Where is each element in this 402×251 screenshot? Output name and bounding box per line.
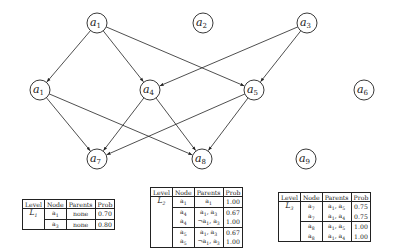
prob-cell: 0.75 — [351, 212, 371, 222]
header-parents: Parents — [322, 193, 351, 202]
node-cell: a4 — [172, 217, 194, 227]
node-cell: a7 — [300, 202, 322, 212]
node-a7: a7 — [87, 149, 107, 169]
parents-cell: none — [66, 209, 95, 220]
cpt-table-level-2: Level Node Parents Prob L2a1a11.00a4a1, … — [150, 187, 243, 248]
table-header-row: Level Node Parents Prob — [279, 193, 371, 202]
prob-cell: 0.67 — [223, 227, 243, 237]
node-a1: a1 — [87, 13, 107, 33]
network-graph: a1a2a3a1a4a5a6a7a8a9 — [0, 0, 402, 185]
parents-cell: a1, a4 — [322, 232, 351, 242]
parents-cell: a1, a4 — [322, 212, 351, 222]
prob-cell: 0.75 — [351, 202, 371, 212]
edge-a3-to-a4 — [160, 27, 298, 86]
prob-cell: 0.67 — [223, 207, 243, 217]
edge-a1_mid-to-a8 — [49, 94, 192, 155]
node-a3: a3 — [297, 13, 317, 33]
edge-a1_top-to-a1_mid — [47, 31, 91, 82]
node-cell: a1 — [44, 209, 66, 220]
table-row: L1a1none0.70 — [23, 209, 115, 220]
parents-cell: a1, a5 — [322, 202, 351, 212]
parents-cell: a1, a3 — [194, 227, 223, 237]
node-cell: a8 — [300, 222, 322, 232]
edge-a5-to-a7 — [107, 94, 245, 155]
parents-cell: a1, a3 — [194, 207, 223, 217]
prob-cell: 0.70 — [95, 209, 115, 220]
node-a1: a1 — [30, 80, 50, 100]
prob-cell: 1.00 — [351, 222, 371, 232]
table-header-row: Level Node Parents Prob — [23, 200, 115, 209]
prob-cell: 1.00 — [351, 232, 371, 242]
table-header-row: Level Node Parents Prob — [151, 188, 243, 197]
cpt-table-level-3: Level Node Parents Prob L3a7a1, a50.75a7… — [278, 192, 371, 242]
node-cell: a3 — [44, 219, 66, 230]
cpt-table-level-1: Level Node Parents Prob L1a1none0.70a3no… — [22, 199, 115, 230]
header-node: Node — [44, 200, 66, 209]
edge-a4-to-a7 — [103, 98, 143, 151]
node-cell: a8 — [300, 232, 322, 242]
parents-cell: ¬a1, a3 — [194, 217, 223, 227]
parents-cell: ¬a1, a3 — [194, 237, 223, 247]
header-prob: Prob — [351, 193, 371, 202]
header-node: Node — [300, 193, 322, 202]
nodes-layer: a1a2a3a1a4a5a6a7a8a9 — [30, 13, 374, 169]
edge-a5-to-a8 — [208, 98, 248, 151]
header-prob: Prob — [95, 200, 115, 209]
parents-cell: a1 — [194, 197, 223, 208]
table-row: L2a1a11.00 — [151, 197, 243, 208]
prob-cell: 1.00 — [223, 197, 243, 208]
parents-cell: a1, a5 — [322, 222, 351, 232]
header-prob: Prob — [223, 188, 243, 197]
node-a9: a9 — [296, 149, 316, 169]
edge-a1_top-to-a4 — [103, 31, 143, 82]
level-cell: L1 — [23, 209, 45, 230]
prob-cell: 1.00 — [223, 237, 243, 247]
node-cell: a5 — [172, 237, 194, 247]
header-parents: Parents — [194, 188, 223, 197]
header-parents: Parents — [66, 200, 95, 209]
edge-a3-to-a5 — [261, 31, 301, 82]
edge-a1_mid-to-a7 — [46, 98, 90, 151]
table-row: L3a7a1, a50.75 — [279, 202, 371, 212]
node-cell: a7 — [300, 212, 322, 222]
prob-cell: 1.00 — [223, 217, 243, 227]
level-cell: L2 — [151, 197, 173, 248]
node-a4: a4 — [140, 80, 160, 100]
edge-a1_top-to-a5 — [106, 27, 244, 86]
node-cell: a4 — [172, 207, 194, 217]
node-a5: a5 — [244, 80, 264, 100]
parents-cell: none — [66, 219, 95, 230]
header-node: Node — [172, 188, 194, 197]
node-cell: a1 — [172, 197, 194, 208]
node-a8: a8 — [192, 149, 212, 169]
node-a6: a6 — [354, 80, 374, 100]
node-cell: a5 — [172, 227, 194, 237]
prob-cell: 0.80 — [95, 219, 115, 230]
node-a2: a2 — [193, 13, 213, 33]
level-cell: L3 — [279, 202, 301, 242]
